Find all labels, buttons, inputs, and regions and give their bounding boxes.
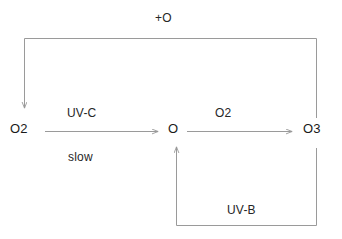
diagram-connectors: O --> O3 -->: [0, 0, 342, 239]
node-label-o2: O2: [10, 122, 28, 135]
edge-label-o2: O2: [215, 107, 231, 119]
node-label-o3: O3: [303, 122, 321, 135]
edge-label-uv-c: UV-C: [67, 107, 96, 119]
edge-label-uv-b: UV-B: [227, 204, 256, 216]
edge-label-plus-o: +O: [155, 12, 172, 24]
edge-label-slow: slow: [68, 151, 93, 163]
diagram-canvas: O --> O3 --> O2 O O3 +O UV-C slow O2 UV-…: [0, 0, 342, 239]
node-label-o: O: [168, 122, 178, 135]
